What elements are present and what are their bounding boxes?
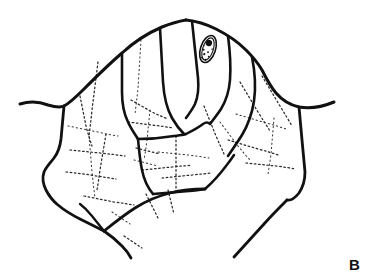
drawing-background	[0, 0, 369, 278]
anatomical-line-drawing	[0, 0, 369, 278]
figure-panel: B	[0, 0, 369, 278]
panel-label-b: B	[349, 257, 360, 272]
